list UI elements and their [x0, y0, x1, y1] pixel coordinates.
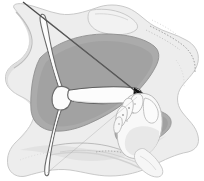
- illustration-canvas: Archer drawing a bow archery-draw-anatom…: [0, 0, 204, 181]
- archery-illustration: [0, 0, 204, 181]
